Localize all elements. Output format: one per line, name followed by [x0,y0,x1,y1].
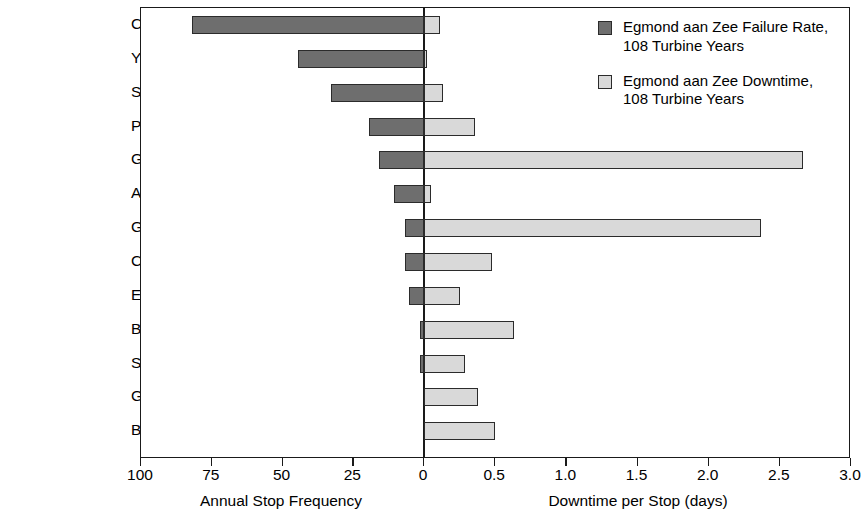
bar-failure-rate [298,50,424,68]
right-axis-tick [779,458,780,466]
bar-downtime [424,16,440,34]
bar-failure-rate [405,253,424,271]
right-axis-tick-label: 2.0 [697,466,719,484]
bar-failure-rate [394,185,424,203]
left-axis-tick [423,458,424,466]
right-axis-tick-label: 1.5 [626,466,648,484]
right-axis-tick-label: 0.5 [483,466,505,484]
left-axis-tick-label: 0 [419,466,428,484]
left-axis-tick [140,458,141,466]
bar-failure-rate [192,16,424,34]
right-axis-tick-label: 3.0 [839,466,861,484]
bar-downtime [424,253,492,271]
bar-downtime [424,287,460,305]
bar-failure-rate [405,219,424,237]
left-axis-tick-label: 100 [127,466,153,484]
bar-downtime [424,185,431,203]
right-axis-tick-label: 1.0 [555,466,577,484]
legend-label: Egmond aan Zee Failure Rate, 108 Turbine… [623,18,828,56]
left-axis-tick-label: 75 [202,466,219,484]
left-axis-tick [282,458,283,466]
legend-item: Egmond aan Zee Downtime, 108 Turbine Yea… [598,72,846,110]
bar-failure-rate [369,118,424,136]
left-axis-tick-label: 25 [344,466,361,484]
bar-failure-rate [409,287,424,305]
bar-downtime [424,422,495,440]
bar-downtime [424,50,427,68]
legend-swatch-light [598,75,612,89]
right-axis-title: Downtime per Stop (days) [548,492,727,510]
left-axis-tick [352,458,353,466]
left-axis-title: Annual Stop Frequency [200,492,362,510]
left-axis-tick-label: 50 [273,466,290,484]
chart-legend: Egmond aan Zee Failure Rate, 108 Turbine… [598,18,846,125]
bar-downtime [424,118,475,136]
right-axis-tick-label: 2.5 [768,466,790,484]
legend-item: Egmond aan Zee Failure Rate, 108 Turbine… [598,18,846,56]
legend-swatch-dark [598,21,612,35]
right-axis-tick [494,458,495,466]
category-axis-labels: Control systemYaw systemSchedule service… [0,0,131,522]
bar-failure-rate [331,84,424,102]
left-axis-tick [211,458,212,466]
bar-downtime [424,388,478,406]
right-axis-tick [565,458,566,466]
bar-downtime [424,355,465,373]
bar-downtime [424,321,514,339]
bar-downtime [424,219,761,237]
bar-failure-rate [379,151,424,169]
legend-label: Egmond aan Zee Downtime, 108 Turbine Yea… [623,72,813,110]
right-axis-tick [708,458,709,466]
right-axis-tick [850,458,851,466]
bar-downtime [424,151,803,169]
right-axis-tick [637,458,638,466]
bar-downtime [424,84,443,102]
bar-chart: Control systemYaw systemSchedule service… [0,0,863,522]
